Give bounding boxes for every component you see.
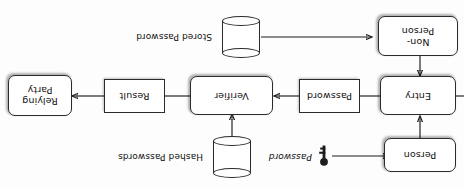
node-password[interactable]: Password xyxy=(299,79,360,113)
diagram-canvas: Person Entry Non- Person Password Verifi… xyxy=(0,0,464,186)
node-password-label: Password xyxy=(307,91,352,102)
node-relying-party-label-line2: Party xyxy=(28,85,53,96)
edge-label-password: Password xyxy=(269,152,312,162)
node-verifier[interactable]: Verifier xyxy=(190,76,273,115)
node-person-label: Person xyxy=(404,150,437,161)
datastore-stored-password-label: Stored Password xyxy=(136,32,212,42)
key-icon xyxy=(318,145,330,166)
node-non-person[interactable]: Non- Person xyxy=(378,16,458,56)
datastore-stored-password[interactable] xyxy=(222,16,260,58)
node-person[interactable]: Person xyxy=(384,138,456,172)
node-verifier-label: Verifier xyxy=(214,90,249,101)
node-entry-label: Entry xyxy=(405,90,431,101)
cylinder-bottom-ellipse xyxy=(213,136,251,146)
node-non-person-label-line2: Person xyxy=(402,25,435,36)
datastore-hashed-passwords[interactable] xyxy=(213,136,251,178)
node-result-label: Result xyxy=(120,91,150,102)
cylinder-top-ellipse xyxy=(222,48,260,58)
node-relying-party[interactable]: Relying Party xyxy=(8,75,72,116)
node-relying-party-label-line1: Relying xyxy=(22,96,58,107)
node-entry[interactable]: Entry xyxy=(380,76,456,115)
cylinder-bottom-ellipse xyxy=(222,16,260,26)
datastore-hashed-passwords-label: Hashed Passwords xyxy=(118,152,203,162)
node-non-person-label-line1: Non- xyxy=(407,36,430,47)
cylinder-top-ellipse xyxy=(213,168,251,178)
node-result[interactable]: Result xyxy=(104,79,165,113)
